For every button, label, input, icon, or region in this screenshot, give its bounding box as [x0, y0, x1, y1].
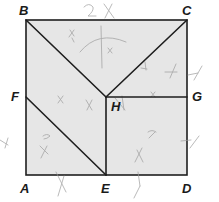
square-dissection-diagram: [0, 0, 219, 202]
label-e: E: [101, 182, 110, 195]
label-h: H: [111, 100, 120, 113]
label-g: G: [192, 90, 202, 103]
label-a: A: [20, 182, 29, 195]
label-f: F: [11, 90, 19, 103]
label-b: B: [19, 4, 28, 17]
label-c: C: [182, 4, 191, 17]
label-d: D: [182, 182, 191, 195]
